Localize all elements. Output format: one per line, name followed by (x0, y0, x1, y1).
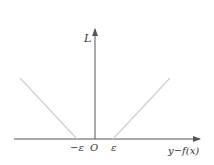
y-axis-label: L (83, 32, 91, 45)
x-axis-label: y−f(x) (167, 145, 199, 156)
loss-line-left (20, 78, 77, 139)
origin-label: O (90, 142, 98, 153)
neg-epsilon-label: −ε (70, 142, 84, 153)
pos-epsilon-label: ε (111, 142, 116, 153)
loss-line-right (113, 78, 170, 139)
loss-diagram: L −ε O ε y−f(x) (0, 0, 214, 165)
